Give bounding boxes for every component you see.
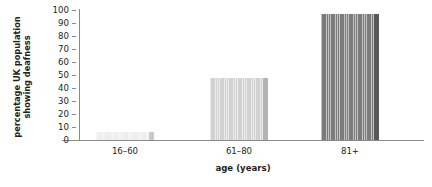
bar-side-edge — [263, 78, 268, 140]
bar-side-edge — [374, 14, 379, 140]
y-axis-tick-mark — [72, 114, 76, 115]
y-axis-tick: 40 — [0, 83, 79, 93]
y-axis-tick-label: 70 — [58, 44, 69, 54]
y-axis-tick-mark — [72, 88, 76, 89]
y-axis-tick-label: 30 — [58, 96, 69, 106]
bar-face — [321, 14, 374, 140]
y-axis-tick-label: 40 — [58, 83, 69, 93]
y-axis-tick-mark — [72, 49, 76, 50]
y-axis-tick-mark — [72, 75, 76, 76]
y-axis-tick: 70 — [0, 44, 79, 54]
y-axis-tick: 100 — [0, 5, 79, 15]
x-axis-category-label: 16–60 — [85, 146, 165, 157]
x-axis-category-label: 61–80 — [199, 146, 279, 157]
y-axis-tick-label: 100 — [53, 5, 69, 15]
y-axis-tick-mark — [72, 140, 76, 141]
y-axis-tick-label: 90 — [58, 18, 69, 28]
y-axis-tick: 90 — [0, 18, 79, 28]
y-axis-tick-label: 20 — [58, 109, 69, 119]
y-axis-tick: 60 — [0, 57, 79, 67]
bar-16–60 — [96, 132, 154, 140]
y-axis-tick-label: 10 — [58, 122, 69, 132]
plot-area — [79, 10, 424, 140]
y-axis-tick-label: 80 — [58, 31, 69, 41]
bar-side-edge — [149, 132, 154, 140]
y-axis-tick-label: 50 — [58, 70, 69, 80]
y-axis-tick-label: 0 — [64, 135, 69, 145]
bar-face — [210, 78, 263, 140]
bar-texture — [96, 132, 149, 140]
y-axis-tick-mark — [72, 10, 76, 11]
y-axis-tick: 80 — [0, 31, 79, 41]
bar-face — [96, 132, 149, 140]
bar-texture — [321, 14, 374, 140]
bar-61–80 — [210, 78, 268, 140]
bar-texture — [210, 78, 263, 140]
y-axis-tick-mark — [72, 23, 76, 24]
y-axis-tick-mark — [72, 127, 76, 128]
y-axis-tick-mark — [72, 101, 76, 102]
y-axis-tick-label: 60 — [58, 57, 69, 67]
y-axis-tick: 0 — [0, 135, 79, 145]
bar-chart: percentage UK population showing deafnes… — [0, 0, 432, 187]
bar-81+ — [321, 14, 379, 140]
y-axis-tick: 20 — [0, 109, 79, 119]
x-axis-line — [62, 140, 424, 141]
y-axis-tick-mark — [72, 36, 76, 37]
x-axis-category-label: 81+ — [310, 146, 390, 157]
x-axis-title: age (years) — [62, 163, 424, 173]
y-axis-tick: 50 — [0, 70, 79, 80]
y-axis-tick: 30 — [0, 96, 79, 106]
y-axis-tick-mark — [72, 62, 76, 63]
y-axis-tick: 10 — [0, 122, 79, 132]
